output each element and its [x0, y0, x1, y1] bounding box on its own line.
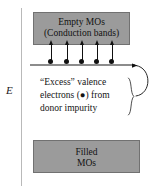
energy-axis-line: [21, 8, 22, 186]
energy-axis-label: E: [6, 85, 13, 96]
conduction-band-label-line2: (Conduction bands): [34, 28, 129, 39]
curved-pointer-arrow: [136, 66, 148, 97]
excitation-arrow: [112, 44, 113, 60]
donor-annotation-line1: “Excess” valence: [40, 76, 126, 89]
conduction-band-label-line1: Empty MOs: [34, 17, 129, 28]
excitation-arrow: [82, 44, 83, 60]
donor-energy-level-line: [30, 64, 135, 66]
band-diagram-figure: E Empty MOs (Conduction bands) “Excess” …: [0, 0, 164, 194]
excitation-arrow: [51, 44, 52, 60]
donor-annotation-line2: electrons (●) from: [40, 89, 126, 102]
excitation-arrow: [97, 44, 98, 60]
curly-brace-icon: [129, 78, 134, 115]
donor-annotation-text: “Excess” valence electrons (●) from dono…: [40, 76, 126, 114]
excitation-arrow: [67, 44, 68, 60]
valence-band-box: Filled MOs: [33, 140, 140, 173]
valence-band-label-line1: Filled: [34, 147, 139, 158]
donor-annotation-line3: donor impurity: [40, 102, 126, 115]
valence-band-label-line2: MOs: [34, 158, 139, 169]
